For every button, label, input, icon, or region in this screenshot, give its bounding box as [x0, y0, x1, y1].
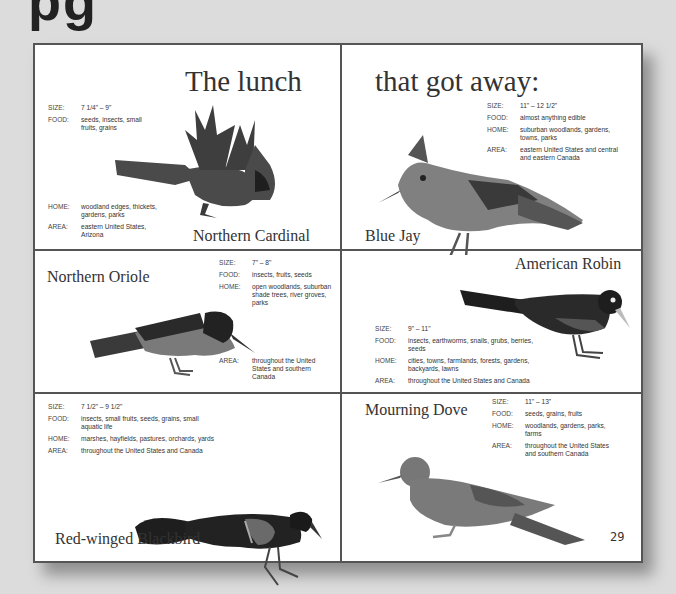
label-food: FOOD:: [219, 271, 252, 279]
bird-name-robin: American Robin: [515, 255, 621, 273]
label-size: SIZE:: [375, 325, 408, 333]
bird-name-bluejay: Blue Jay: [365, 227, 421, 245]
divider-vertical: [340, 45, 342, 561]
title-left: The lunch: [185, 65, 302, 98]
divider-horizontal-2: [35, 392, 641, 394]
bluejay-food: almost anything edible: [520, 114, 627, 122]
label-home: HOME:: [48, 435, 81, 443]
page-heading-fragment: pg: [28, 0, 98, 32]
blackbird-illustration-icon: [130, 507, 330, 592]
blackbird-home: marshes, hayfields, pastures, orchards, …: [81, 435, 218, 443]
blackbird-info: SIZE:7 1/2" – 9 1/2" FOOD:insects, small…: [48, 403, 218, 459]
label-food: FOOD:: [48, 116, 81, 132]
oriole-illustration-icon: [85, 303, 260, 383]
robin-size: 9" – 11": [408, 325, 550, 333]
blackbird-food: insects, small fruits, seeds, grains, sm…: [81, 415, 218, 431]
dove-illustration-icon: [375, 445, 605, 560]
label-home: HOME:: [375, 357, 408, 373]
label-food: FOOD:: [375, 337, 408, 353]
label-food: FOOD:: [48, 415, 81, 431]
bird-name-cardinal: Northern Cardinal: [193, 227, 310, 245]
page-number: 29: [610, 530, 624, 544]
blackbird-area: throughout the United States and Canada: [81, 447, 218, 455]
dove-home: woodlands, gardens, parks, farms: [525, 422, 617, 438]
robin-home: cities, towns, farmlands, forests, garde…: [408, 357, 550, 373]
oriole-size: 7" – 8": [252, 259, 334, 267]
label-size: SIZE:: [487, 102, 520, 110]
robin-area: throughout the United States and Canada: [408, 377, 550, 385]
label-size: SIZE:: [492, 398, 525, 406]
title-right: that got away:: [375, 65, 539, 98]
bird-sheet: The lunch that got away: SIZE:7 1/4" – 9…: [33, 43, 643, 563]
oriole-home: open woodlands, suburban shade trees, ri…: [252, 283, 334, 307]
label-home: HOME:: [492, 422, 525, 438]
label-home: HOME:: [48, 203, 81, 219]
label-size: SIZE:: [48, 403, 81, 411]
label-food: FOOD:: [487, 114, 520, 122]
label-area: AREA:: [48, 447, 81, 455]
robin-info: SIZE:9" – 11" FOOD:insects, earthworms, …: [375, 325, 550, 389]
dove-size: 11" – 13": [525, 398, 617, 406]
label-size: SIZE:: [48, 104, 81, 112]
label-size: SIZE:: [219, 259, 252, 267]
label-area: AREA:: [48, 223, 81, 239]
label-food: FOOD:: [492, 410, 525, 418]
blackbird-size: 7 1/2" – 9 1/2": [81, 403, 218, 411]
bird-name-blackbird: Red-winged Blackbird: [55, 530, 200, 548]
robin-food: insects, earthworms, snails, grubs, berr…: [408, 337, 550, 353]
dove-food: seeds, grains, fruits: [525, 410, 617, 418]
bluejay-size: 11" – 12 1/2": [520, 102, 627, 110]
cardinal-illustration-icon: [105, 100, 325, 230]
oriole-food: insects, fruits, seeds: [252, 271, 334, 279]
oriole-area: throughout the United States and souther…: [252, 357, 334, 381]
label-area: AREA:: [375, 377, 408, 385]
bird-name-dove: Mourning Dove: [365, 401, 468, 419]
bird-name-oriole: Northern Oriole: [47, 268, 150, 286]
